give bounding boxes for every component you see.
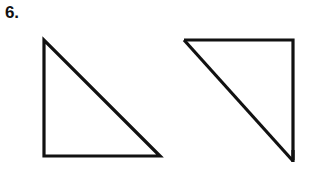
right-triangle-hypotenuse — [184, 40, 293, 161]
geometry-figure: 6. — [0, 0, 313, 176]
shapes-canvas — [0, 0, 313, 176]
left-right-triangle — [44, 40, 160, 156]
